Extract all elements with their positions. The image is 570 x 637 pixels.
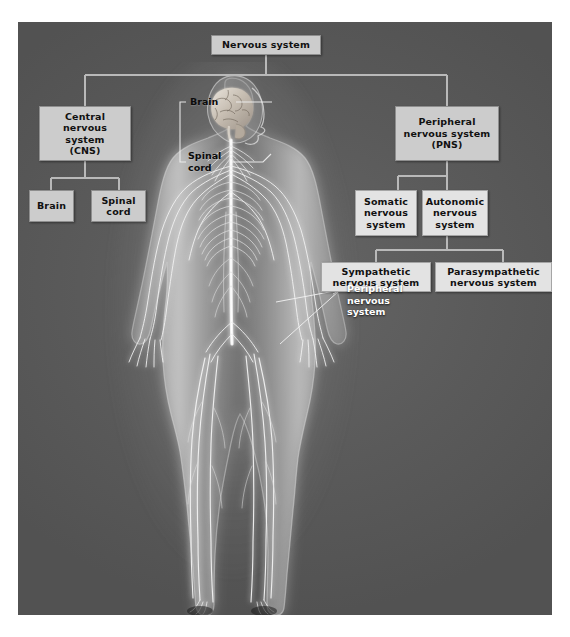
node-central-nervous-system[interactable]: Central nervous system (CNS) [39,106,131,161]
callout-label-peripheral-nervous-system: Peripheral nervous system [347,283,403,318]
node-autonomic-nervous-system[interactable]: Autonomic nervous system [422,190,488,236]
node-nervous-system[interactable]: Nervous system [211,35,321,55]
node-parasympathetic-nervous-system[interactable]: Parasympathetic nervous system [435,262,552,292]
diagram-panel: Nervous system Central nervous system (C… [18,22,552,615]
human-nervous-system-figure [102,62,362,615]
node-cns-brain[interactable]: Brain [29,190,74,222]
node-cns-spinal-cord[interactable]: Spinal cord [91,190,146,222]
screenshot-root: Nervous system Central nervous system (C… [0,0,570,637]
callout-label-spinal-cord: Spinal cord [188,150,221,173]
node-somatic-nervous-system[interactable]: Somatic nervous system [355,190,417,236]
callout-label-brain: Brain [190,96,218,108]
node-peripheral-nervous-system[interactable]: Peripheral nervous system (PNS) [395,106,499,161]
